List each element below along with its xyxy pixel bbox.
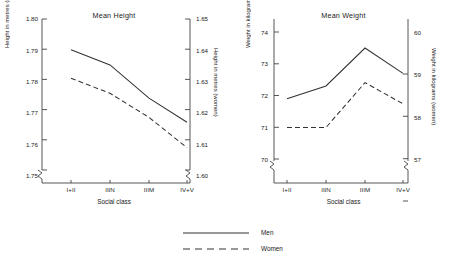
plot-area-weight — [228, 0, 459, 215]
right-ticks-height — [185, 19, 190, 170]
axis-break-left-weight — [270, 161, 274, 170]
plot-area-height — [0, 0, 228, 215]
legend-label-men: Men — [261, 229, 273, 236]
axis-break-right-height — [186, 170, 190, 179]
axis-break-left-height — [38, 170, 42, 179]
chart-legend: Men Women — [0, 218, 459, 269]
left-ticks-height — [42, 19, 47, 170]
left-ticks-weight — [274, 32, 279, 159]
series-line-women-height — [71, 78, 187, 148]
series-line-women-weight — [287, 83, 403, 128]
legend-swatch-women-dashed — [183, 245, 253, 253]
legend-label-women: Women — [261, 245, 283, 252]
figure-two-panel-charts: Mean Height Height in metres (men) Heigh… — [0, 0, 459, 269]
chart-panel-mean-weight: Mean Weight Weight in kilograms (men) We… — [228, 0, 459, 215]
series-line-men-height — [71, 50, 187, 123]
chart-panel-mean-height: Mean Height Height in metres (men) Heigh… — [0, 0, 228, 215]
right-ticks-weight — [403, 74, 408, 201]
series-line-men-weight — [287, 48, 403, 99]
axis-break-right-weight — [404, 161, 408, 170]
legend-swatch-men-solid — [183, 229, 253, 237]
